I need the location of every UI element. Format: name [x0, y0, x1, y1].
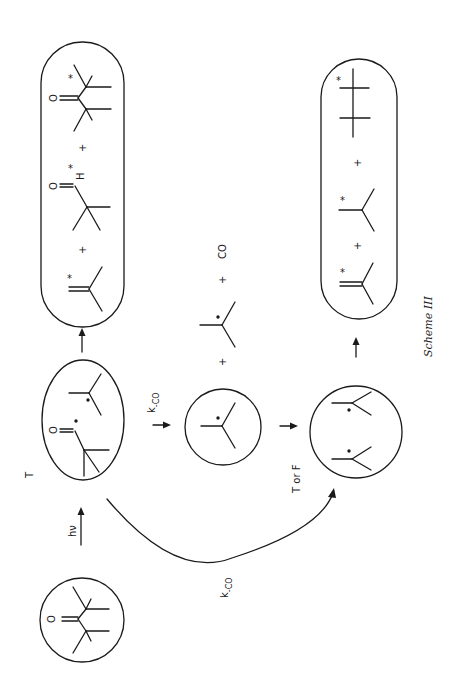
isobutylene-star: * — [67, 273, 72, 284]
plus-4: + — [352, 159, 363, 167]
plus-1: + — [77, 246, 88, 254]
t-or-f-arrow: T or F — [280, 423, 302, 495]
arrow-to-acyl-products — [79, 328, 86, 352]
kco-upper-label: k-CO — [146, 392, 161, 413]
pivaldehyde-star: * — [68, 163, 73, 174]
pivaldehyde-oxygen-label: O — [48, 182, 59, 190]
kco-upper-arrow: k-CO — [146, 392, 171, 428]
pivaldehyde-hydrogen-label: H — [75, 172, 86, 180]
side-products: + + CO — [200, 244, 235, 366]
tert-butyl-radical-node — [185, 389, 261, 465]
radical-pair-alkyl-node — [310, 386, 402, 478]
products-alkyl-enclosure — [321, 59, 397, 319]
pivaldehyde-structure — [60, 184, 110, 230]
co-label: CO — [217, 244, 228, 259]
plus-2: + — [77, 144, 88, 152]
ketone-structure — [62, 587, 109, 653]
ketone-node: O — [40, 578, 124, 662]
radical-pair-alkyl-enclosure — [310, 386, 402, 478]
products-alkyl-node: * + * + * — [321, 59, 397, 319]
triplet-label: T — [24, 471, 35, 479]
tert-butyl-radical-1 — [332, 392, 371, 415]
scheme-diagram: O hν T O — [0, 0, 451, 695]
radical-pair-acyl-node: O — [42, 360, 124, 480]
ketone-product-oxygen-label: O — [48, 94, 59, 102]
radical-pair-acyl-enclosure — [42, 360, 124, 480]
scheme-caption: Scheme III — [422, 296, 435, 357]
tert-butyl-radical-2 — [332, 447, 371, 470]
plus-3: + — [352, 242, 363, 250]
hv-label: hν — [67, 525, 78, 537]
isobutylene-2-star: * — [340, 267, 345, 278]
isobutane-star: * — [340, 195, 345, 206]
products-acyl-node: * + O H * + O * — [41, 42, 124, 327]
isobutylene-structure — [69, 267, 102, 311]
tetramethylbutane-star: * — [336, 75, 341, 86]
ketone-product-star: * — [68, 73, 73, 84]
hv-arrow: hν — [67, 507, 85, 545]
ketone-oxygen-label: O — [46, 615, 57, 623]
tetramethylbutane-structure — [340, 69, 370, 137]
side-tert-butyl-radical — [200, 302, 235, 347]
kco-lower-label: k-CO — [219, 577, 234, 598]
tert-butyl-radical-in-pair — [69, 374, 101, 415]
kco-curved-arrow: k-CO — [107, 488, 336, 598]
pivaloyl-oxygen-label: O — [48, 426, 59, 434]
pivaloyl-radical-structure — [60, 419, 109, 476]
t-or-f-label: T or F — [291, 464, 302, 494]
arrow-to-alkyl-products — [353, 337, 360, 357]
plus-side-2: + — [217, 276, 228, 284]
plus-side-1: + — [217, 358, 228, 366]
